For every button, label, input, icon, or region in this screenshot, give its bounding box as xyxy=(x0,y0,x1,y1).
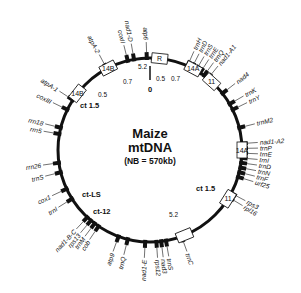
gene-trnM2: trnM2 xyxy=(237,116,274,128)
size-annotation: 5.2 xyxy=(138,63,147,70)
leader-line xyxy=(162,247,163,257)
svg-text:R: R xyxy=(157,55,162,62)
leader-line xyxy=(237,196,246,201)
leader-line xyxy=(212,66,218,74)
leader-line xyxy=(184,242,187,251)
leader-line xyxy=(85,228,91,236)
gene-atp6: atp6 xyxy=(141,27,149,60)
leader-line xyxy=(59,91,67,96)
gene-block xyxy=(53,163,61,164)
size-annotation: 0.7 xyxy=(171,75,180,82)
leader-line xyxy=(190,51,194,60)
gene-atp9: atp9 xyxy=(105,235,119,267)
ct-label: ct 1.5 xyxy=(196,184,215,193)
mtdna-circular-map: atpA-2coxIInad1-Datp6trnHtrnDtrnStrnEtrn… xyxy=(0,0,301,293)
size-annotation: 0.5 xyxy=(98,91,107,98)
gene-block xyxy=(237,172,245,174)
leader-line xyxy=(43,164,53,165)
leader-line xyxy=(227,84,235,90)
leader-line xyxy=(248,142,258,143)
gene-block xyxy=(237,126,245,128)
leader-line xyxy=(52,191,61,195)
leader-line xyxy=(131,44,133,54)
gene-label: atp9 xyxy=(105,252,117,267)
leader-line xyxy=(244,179,254,182)
gene-label: rrn26 xyxy=(26,162,42,171)
gene-label: trnC xyxy=(184,252,195,266)
gene-block xyxy=(55,126,63,128)
repeat-box-R: R xyxy=(151,53,168,65)
title-line3: (NB = 570kb) xyxy=(124,156,176,166)
gene-label: urf25 xyxy=(254,179,271,190)
svg-text:14A: 14A xyxy=(236,147,249,154)
title-line2: mtDNA xyxy=(128,140,173,155)
leader-line xyxy=(245,124,255,126)
leader-line xyxy=(248,159,258,160)
size-annotation: 5.2 xyxy=(169,211,178,218)
svg-text:11: 11 xyxy=(208,78,215,85)
gene-label: atpA-2 xyxy=(85,34,101,55)
gene-label: trnI xyxy=(47,205,59,216)
gene-block xyxy=(161,239,162,247)
gene-coxIII: coxIII xyxy=(36,92,69,111)
gene-label: atp6 xyxy=(141,27,149,40)
gene-label: trnS xyxy=(31,173,45,183)
gene-block xyxy=(53,133,61,134)
gene-label: nad1-E xyxy=(140,259,148,281)
gene-rrn26: rrn26 xyxy=(26,162,61,171)
size-annotation: 0.7 xyxy=(123,78,132,85)
origin-marker: 0 xyxy=(148,66,152,94)
leader-line xyxy=(124,245,126,255)
gene-block xyxy=(116,235,119,243)
leader-line xyxy=(58,202,66,207)
gene-block xyxy=(156,240,157,248)
gene-block xyxy=(55,172,63,174)
gene-label: trnM2 xyxy=(256,116,274,127)
leader-line xyxy=(76,222,83,229)
gene-label: cox1 xyxy=(36,193,52,205)
leader-line xyxy=(246,169,256,171)
gene-label: atpA-1 xyxy=(39,77,60,94)
leader-line xyxy=(99,55,104,64)
leader-line xyxy=(113,242,116,251)
svg-text:14B: 14B xyxy=(102,65,115,72)
ct-label: ct-12 xyxy=(93,207,111,216)
gene-block xyxy=(236,176,244,178)
repeat-box-14A: 14A xyxy=(236,142,249,158)
leader-line xyxy=(167,247,169,257)
svg-text:14B: 14B xyxy=(71,90,84,97)
leader-line xyxy=(53,103,62,107)
gene-trnI: trnI xyxy=(47,198,74,217)
gene-nad1-E: nad1-E xyxy=(140,240,148,281)
leader-line xyxy=(208,63,214,71)
repeat-box-unlabeled xyxy=(175,228,194,243)
leader-line xyxy=(203,59,208,67)
gene-block xyxy=(238,167,246,169)
leader-line xyxy=(90,231,96,239)
gene-label: coxIII xyxy=(36,92,53,105)
gene-block xyxy=(126,237,128,245)
gene-trnQ: trnQ xyxy=(117,237,128,270)
gene-label: nad4 xyxy=(235,70,251,85)
gene-block xyxy=(133,53,134,61)
leader-line xyxy=(238,103,247,107)
gene-cox1: cox1 xyxy=(36,188,68,205)
leader-line xyxy=(144,248,145,258)
gene-block xyxy=(126,55,128,63)
leader-line xyxy=(235,96,244,101)
leader-line xyxy=(199,56,204,65)
ct-label: ct-LS xyxy=(82,190,101,199)
leader-line xyxy=(81,225,87,233)
repeat-box-14B: 14B xyxy=(98,59,118,77)
gene-label: rps12 xyxy=(153,259,162,276)
map-title: Maize mtDNA (NB = 570kb) xyxy=(124,126,176,166)
title-line1: Maize xyxy=(132,126,167,141)
gene-block xyxy=(239,163,247,164)
svg-text:11: 11 xyxy=(224,195,231,202)
leader-line xyxy=(45,174,55,176)
gene-label: rrn5 xyxy=(30,125,43,134)
gene-label: trnQ xyxy=(117,256,128,270)
gene-block xyxy=(166,239,167,247)
leader-line xyxy=(194,54,199,63)
svg-text:14A: 14A xyxy=(187,65,200,72)
